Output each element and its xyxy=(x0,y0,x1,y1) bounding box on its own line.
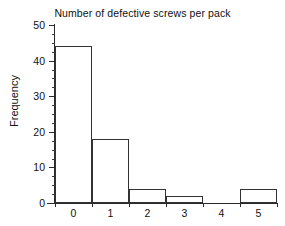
x-tick-label-4: 4 xyxy=(219,207,225,219)
y-tick-label: 20 xyxy=(33,126,45,137)
y-tick-label: 40 xyxy=(33,55,45,66)
x-tick-mark xyxy=(240,203,241,207)
y-tick-mark xyxy=(49,25,55,26)
y-minor-tick-mark xyxy=(52,43,55,44)
x-tick-mark xyxy=(55,203,56,207)
y-tick-mark xyxy=(49,132,55,133)
x-tick-mark xyxy=(166,203,167,207)
x-tick-label-5: 5 xyxy=(256,207,262,219)
x-tick-label-0: 0 xyxy=(71,207,77,219)
chart-figure: Number of defective screws per pack Freq… xyxy=(0,0,285,226)
y-tick-label: 50 xyxy=(33,20,45,31)
y-tick-mark xyxy=(49,96,55,97)
x-tick-mark xyxy=(129,203,130,207)
y-tick-label: 10 xyxy=(33,162,45,173)
y-tick-label: 30 xyxy=(33,91,45,102)
x-axis-line xyxy=(47,203,278,204)
bar-5 xyxy=(240,189,276,203)
x-tick-mark xyxy=(203,203,204,207)
x-tick-label-2: 2 xyxy=(145,207,151,219)
bar-3 xyxy=(166,196,202,203)
y-minor-tick-mark xyxy=(52,34,55,35)
y-tick-label: 0 xyxy=(39,198,45,209)
bar-2 xyxy=(129,189,165,203)
x-tick-label-3: 3 xyxy=(182,207,188,219)
bar-0 xyxy=(55,46,91,203)
y-tick-mark xyxy=(49,167,55,168)
y-axis-label: Frequency xyxy=(8,56,20,146)
x-tick-label-1: 1 xyxy=(108,207,114,219)
y-tick-mark xyxy=(49,61,55,62)
bar-1 xyxy=(92,139,128,203)
x-tick-mark xyxy=(92,203,93,207)
x-tick-mark xyxy=(277,203,278,207)
plot-area: 01020304050 012345 xyxy=(55,25,277,203)
